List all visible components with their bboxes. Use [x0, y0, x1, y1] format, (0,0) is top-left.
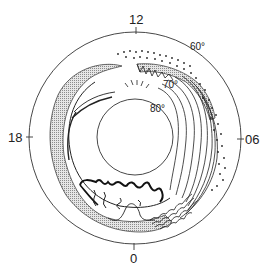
latitude-label-70: 70°	[163, 80, 178, 90]
polar-diagram	[0, 0, 271, 273]
time-label-06: 06	[245, 133, 259, 146]
time-label-0: 0	[130, 252, 137, 265]
time-label-18: 18	[8, 131, 22, 144]
cusp-dashes	[125, 80, 149, 88]
inner-squiggles	[93, 190, 140, 209]
stippled-band-dayside	[137, 64, 215, 120]
latitude-label-60: 60°	[190, 42, 205, 52]
latitude-label-80: 80°	[150, 104, 165, 114]
time-label-12: 12	[129, 13, 143, 26]
